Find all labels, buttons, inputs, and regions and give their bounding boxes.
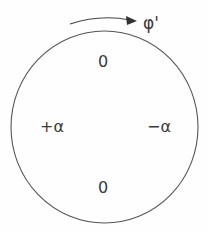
label-bottom: 0 bbox=[98, 180, 108, 196]
arrowhead-icon bbox=[126, 16, 137, 25]
rotation-arrow bbox=[70, 18, 130, 24]
label-top: 0 bbox=[98, 54, 108, 70]
label-left: +α bbox=[40, 119, 64, 135]
label-right: −α bbox=[147, 119, 171, 135]
rotation-label: φ' bbox=[143, 15, 159, 32]
